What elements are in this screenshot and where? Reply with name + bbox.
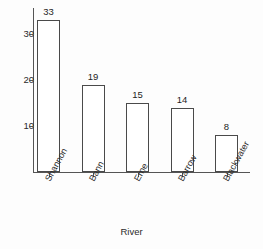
bar-value-label: 8 <box>207 122 247 132</box>
bar <box>37 20 60 172</box>
bar-value-label: 19 <box>73 72 113 82</box>
x-axis-title: River <box>0 226 263 237</box>
bar-value-label: 33 <box>29 7 69 17</box>
bar-value-label: 14 <box>162 95 202 105</box>
y-tick-mark <box>29 34 34 35</box>
y-tick-mark <box>29 126 34 127</box>
y-tick-mark <box>29 80 34 81</box>
bar-chart: 102030 331915148 ShannonBannErneBarrowBl… <box>0 0 263 249</box>
bar <box>126 103 149 172</box>
bar <box>82 85 105 172</box>
bar-value-label: 15 <box>118 90 158 100</box>
